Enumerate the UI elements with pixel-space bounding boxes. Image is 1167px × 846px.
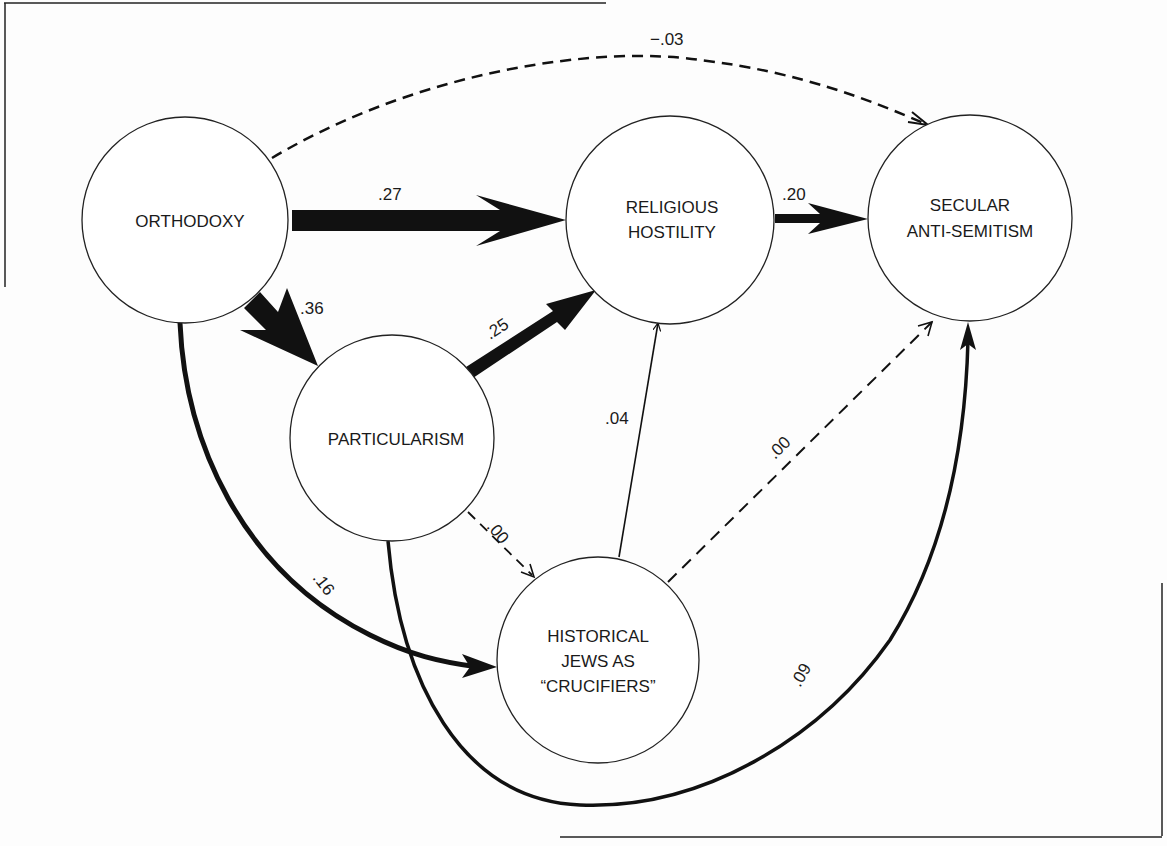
- node-label-secular-line1: SECULAR: [930, 196, 1010, 215]
- node-label-orthodoxy: ORTHODOXY: [135, 212, 244, 231]
- edge-label-particularism-historical: .00: [483, 517, 513, 547]
- node-label-particularism: PARTICULARISM: [328, 430, 464, 449]
- node-orthodoxy: ORTHODOXY: [82, 117, 288, 323]
- path-diagram: −.03 .27 .20 .36 .25 .04 .00 .00: [0, 0, 1167, 846]
- edge-historical-religious: .04: [605, 323, 658, 557]
- edge-historical-secular: .00: [668, 322, 932, 582]
- node-secular-antisemitism: SECULAR ANTI-SEMITISM: [868, 115, 1072, 321]
- node-label-secular-line2: ANTI-SEMITISM: [907, 222, 1034, 241]
- node-religious-hostility: RELIGIOUS HOSTILITY: [566, 116, 774, 324]
- node-label-historical-line2: JEWS AS: [561, 652, 635, 671]
- node-label-historical-line3: “CRUCIFIERS”: [540, 677, 656, 696]
- node-label-historical-line1: HISTORICAL: [547, 627, 649, 646]
- edge-orthodoxy-secular: −.03: [272, 30, 928, 158]
- node-historical-jews: HISTORICAL JEWS AS “CRUCIFIERS”: [497, 557, 699, 763]
- edge-label-orthodoxy-religious: .27: [378, 185, 402, 204]
- node-label-religious-line2: HOSTILITY: [628, 223, 716, 242]
- edge-label-orthodoxy-historical: .16: [309, 569, 339, 599]
- edge-label-religious-secular: .20: [782, 185, 806, 204]
- edge-label-historical-religious: .04: [605, 409, 629, 428]
- edge-label-particularism-religious: .25: [482, 315, 512, 344]
- node-particularism: PARTICULARISM: [290, 335, 494, 541]
- edge-particularism-historical: .00: [468, 512, 534, 577]
- edge-label-historical-secular: .00: [764, 433, 794, 463]
- edge-orthodoxy-particularism: .36: [240, 288, 324, 366]
- node-label-religious-line1: RELIGIOUS: [626, 198, 719, 217]
- edge-particularism-religious: .25: [466, 290, 596, 378]
- edge-religious-secular: .20: [775, 185, 868, 234]
- edge-label-orthodoxy-secular: −.03: [650, 30, 684, 49]
- edge-label-particularism-secular: .09: [787, 660, 815, 690]
- edge-orthodoxy-religious: .27: [292, 185, 566, 246]
- edge-label-orthodoxy-particularism: .36: [300, 299, 324, 318]
